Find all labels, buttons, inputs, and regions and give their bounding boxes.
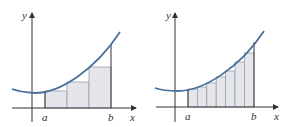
b-label: b [108, 111, 114, 123]
rectangle-7 [244, 53, 254, 107]
rectangle-3 [207, 83, 216, 107]
rectangle-6 [235, 62, 244, 107]
rectangle-4 [216, 77, 225, 107]
figure-left: y x a b [12, 9, 136, 123]
riemann-sum-figures: y x a b y x a b [0, 0, 298, 127]
rectangles [188, 53, 254, 107]
figure-right: y x a b [155, 9, 279, 122]
y-axis-label: y [165, 9, 171, 21]
rectangles [45, 67, 111, 108]
x-axis-label: x [273, 110, 279, 122]
rectangle-1 [45, 91, 67, 108]
rectangle-2 [197, 87, 206, 107]
rectangle-5 [226, 71, 235, 107]
a-label: a [42, 111, 48, 123]
a-label: a [185, 110, 191, 122]
rectangle-2 [67, 82, 89, 108]
rectangle-1 [188, 89, 197, 107]
x-axis-label: x [129, 111, 135, 123]
rectangle-3 [89, 67, 111, 108]
b-label: b [251, 110, 257, 122]
y-axis-label: y [21, 9, 27, 21]
